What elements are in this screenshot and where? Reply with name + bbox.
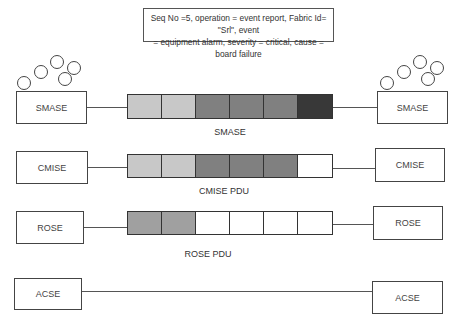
right-acse-label: ACSE (395, 293, 420, 303)
rose-pdu (127, 211, 333, 235)
left-acse-box: ACSE (14, 278, 82, 310)
pdu-field (230, 155, 264, 177)
right-smase-connector (333, 107, 377, 108)
pdu-field (264, 95, 298, 118)
pdu-field (264, 212, 298, 234)
pdu-field (196, 212, 230, 234)
pdu-field (230, 95, 264, 118)
note-line-1: Seq No =5, operation = event report, Fab… (150, 12, 327, 36)
right-smase-label: SMASE (397, 103, 429, 113)
event-report-note: Seq No =5, operation = event report, Fab… (143, 8, 334, 42)
pdu-field (298, 95, 332, 118)
left-acse-label: ACSE (36, 289, 61, 299)
right-rose-box: ROSE (373, 206, 443, 240)
managed-object-cluster-icon (14, 50, 84, 90)
left-smase-box: SMASE (16, 91, 87, 124)
right-rose-connector (333, 224, 373, 225)
pdu-field (128, 212, 162, 234)
left-rose-box: ROSE (16, 211, 84, 244)
rose-pdu-label: ROSE PDU (158, 249, 258, 259)
right-rose-label: ROSE (395, 218, 421, 228)
left-cmise-label: CMISE (38, 163, 67, 173)
left-smase-label: SMASE (36, 103, 68, 113)
left-rose-label: ROSE (37, 223, 63, 233)
right-acse-box: ACSE (372, 281, 443, 314)
smase-pdu (127, 94, 333, 119)
left-smase-connector (87, 107, 127, 108)
right-cmise-connector (333, 168, 375, 169)
pdu-field (196, 155, 230, 177)
cmise-pdu (127, 154, 333, 178)
right-cmise-box: CMISE (375, 148, 445, 182)
pdu-field (128, 95, 162, 118)
smase-pdu-label: SMASE (180, 127, 280, 137)
pdu-field (162, 95, 196, 118)
acse-connector (82, 291, 372, 292)
pdu-field (298, 212, 332, 234)
pdu-field (162, 155, 196, 177)
pdu-field (264, 155, 298, 177)
pdu-field (196, 95, 230, 118)
pdu-field (298, 155, 332, 177)
note-line-2: = equipment alarm, severity = critical, … (150, 36, 327, 60)
right-smase-box: SMASE (377, 91, 448, 124)
left-cmise-connector (88, 167, 127, 168)
pdu-field (162, 212, 196, 234)
pdu-field (128, 155, 162, 177)
pdu-field (230, 212, 264, 234)
left-rose-connector (84, 227, 127, 228)
right-cmise-label: CMISE (396, 160, 425, 170)
cmise-pdu-label: CMISE PDU (174, 186, 274, 196)
managed-object-cluster-icon (377, 50, 447, 90)
left-cmise-box: CMISE (16, 151, 88, 184)
